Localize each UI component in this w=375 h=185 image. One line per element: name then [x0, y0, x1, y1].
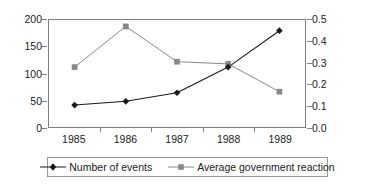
right-axis-tick-mark	[307, 19, 312, 20]
x-axis-tick-mark	[254, 128, 255, 132]
diamond-marker-icon	[40, 162, 66, 172]
x-axis-tick-mark	[100, 128, 101, 132]
right-axis-tick-mark	[307, 63, 312, 64]
right-axis-tick-label: 0.4	[312, 36, 327, 47]
right-axis-tick-label: 0.0	[312, 123, 327, 134]
data-point-marker	[277, 89, 283, 95]
square-marker-icon	[168, 162, 194, 172]
left-axis-tick-mark	[42, 74, 47, 75]
left-axis: 050100150200	[0, 19, 42, 128]
right-axis-tick-mark	[307, 106, 312, 107]
series-markers-reaction	[72, 24, 283, 95]
data-point-marker	[122, 98, 129, 105]
left-axis-tick-label: 50	[30, 96, 42, 107]
data-point-marker	[71, 102, 78, 109]
left-axis-tick-mark	[42, 19, 47, 20]
left-axis-tick-mark	[42, 101, 47, 102]
left-axis-tick-label: 200	[24, 14, 42, 25]
chart-legend: Number of events Average government reac…	[47, 157, 328, 177]
legend-item-number-of-events: Number of events	[40, 162, 152, 173]
plot-svg	[49, 20, 305, 127]
x-axis-tick-label: 1985	[62, 134, 85, 145]
right-axis-tick-label: 0.1	[312, 101, 327, 112]
right-axis-tick-label: 0.3	[312, 57, 327, 68]
data-point-marker	[174, 59, 180, 65]
x-axis-tick-mark	[151, 128, 152, 132]
legend-item-average-government-reaction: Average government reaction	[168, 162, 335, 173]
right-axis-tick-label: 0.2	[312, 79, 327, 90]
left-axis-tick-label: 150	[24, 41, 42, 52]
right-axis: 0.00.10.20.30.40.5	[312, 19, 372, 128]
x-axis-tick-mark	[203, 128, 204, 132]
data-point-marker	[72, 64, 78, 70]
left-axis-tick-mark	[42, 46, 47, 47]
legend-label-number-of-events: Number of events	[69, 162, 152, 173]
x-axis-tick-label: 1986	[114, 134, 137, 145]
x-axis-tick-label: 1989	[269, 134, 292, 145]
chart-container: 050100150200 0.00.10.20.30.40.5 19851986…	[0, 0, 375, 185]
x-axis: 19851986198719881989	[48, 128, 306, 150]
x-axis-tick-label: 1987	[165, 134, 188, 145]
right-axis-tick-mark	[307, 41, 312, 42]
right-axis-tick-mark	[307, 84, 312, 85]
data-point-marker	[174, 89, 181, 96]
left-axis-tick-label: 100	[24, 68, 42, 79]
series-markers-events	[71, 27, 283, 108]
legend-label-average-government-reaction: Average government reaction	[197, 162, 335, 173]
x-axis-tick-label: 1988	[217, 134, 240, 145]
plot-area	[48, 19, 306, 128]
right-axis-tick-mark	[307, 128, 312, 129]
left-axis-tick-mark	[42, 128, 47, 129]
data-point-marker	[123, 24, 129, 30]
right-axis-tick-label: 0.5	[312, 14, 327, 25]
